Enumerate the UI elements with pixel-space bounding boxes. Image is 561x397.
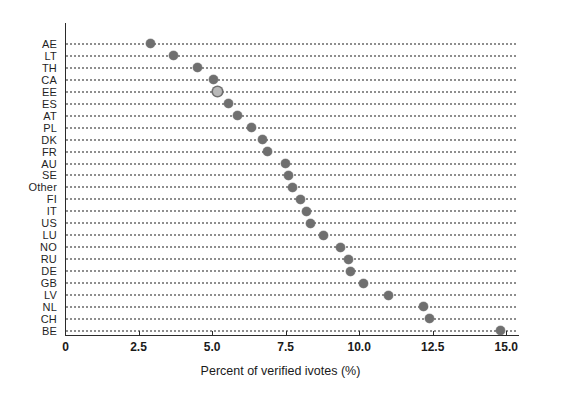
x-axis-ticks: 02.55.07.510.012.515.0 (65, 335, 519, 365)
x-axis-tick-label: 2.5 (130, 341, 147, 354)
row-gridline-dotted (65, 270, 518, 272)
x-axis-tick-mark (433, 331, 434, 336)
row-gridline-dotted (65, 127, 518, 129)
row-gridline-dotted (65, 115, 518, 117)
y-axis-tick-label: NL (43, 301, 57, 312)
y-axis-tick-label: DE (41, 266, 57, 277)
y-axis-tick-label: AT (43, 110, 57, 121)
data-point-marker (281, 159, 290, 168)
data-point-marker (169, 51, 178, 60)
y-axis-tick-label: FI (47, 194, 57, 205)
row-gridline-dotted (65, 198, 518, 200)
y-axis-tick-label: BE (42, 325, 57, 336)
x-axis-tick-mark (506, 331, 507, 336)
data-point-marker (146, 39, 155, 48)
data-point-marker (288, 183, 297, 192)
y-axis-tick-label: LV (44, 290, 57, 301)
plot-area (65, 23, 518, 335)
y-axis-tick-label: GB (41, 278, 57, 289)
y-axis-tick-label: CH (41, 313, 57, 324)
x-axis-title: Percent of verified ivotes (%) (0, 364, 561, 379)
y-axis-tick-label: TH (42, 62, 57, 73)
x-axis-tick-label: 12.5 (421, 341, 444, 354)
data-point-marker (302, 207, 311, 216)
y-axis-tick-labels: AELTTHCAEEESATPLDKFRAUSEOtherFIITUSLUNOR… (0, 23, 61, 335)
y-axis-tick-label: SE (42, 170, 57, 181)
x-axis-tick-label: 15.0 (495, 341, 518, 354)
row-gridline-dotted (65, 330, 518, 332)
y-axis-tick-label: NO (40, 242, 57, 253)
row-gridline-dotted (65, 258, 518, 260)
row-gridline-dotted (65, 151, 518, 153)
y-axis-tick-label: ES (42, 98, 57, 109)
data-point-marker (359, 279, 368, 288)
y-axis-tick-label: FR (42, 146, 57, 157)
y-axis-tick-label: Other (28, 182, 57, 193)
row-gridline-dotted (65, 282, 518, 284)
row-gridline-dotted (65, 163, 518, 165)
y-axis-tick-label: LU (43, 230, 57, 241)
data-point-marker (224, 99, 233, 108)
data-point-marker (284, 171, 293, 180)
row-gridline-dotted (65, 234, 518, 236)
row-gridline-dotted (65, 139, 518, 141)
row-gridline-dotted (65, 43, 518, 45)
data-point-marker (319, 231, 328, 240)
data-point-marker (384, 291, 393, 300)
row-gridline-dotted (65, 246, 518, 248)
y-axis-tick-label: RU (41, 254, 57, 265)
data-point-marker (346, 267, 355, 276)
data-point-marker (336, 243, 345, 252)
x-axis-tick-label: 7.5 (277, 341, 294, 354)
x-axis-tick-label: 0 (62, 341, 69, 354)
data-point-marker (213, 87, 222, 96)
data-point-marker (258, 135, 267, 144)
x-axis-tick-mark (212, 331, 213, 336)
y-axis-tick-label: EE (42, 86, 57, 97)
row-gridline-dotted (65, 79, 518, 81)
data-point-marker (344, 255, 353, 264)
row-gridline-dotted (65, 306, 518, 308)
y-axis-tick-label: AU (41, 158, 57, 169)
y-axis-tick-label: LT (45, 50, 57, 61)
x-axis-tick-mark (65, 331, 66, 336)
data-point-marker (425, 314, 434, 323)
x-axis-tick-label: 5.0 (204, 341, 221, 354)
data-point-marker (263, 147, 272, 156)
data-point-marker (496, 326, 505, 335)
data-point-marker (296, 195, 305, 204)
data-point-marker (233, 111, 242, 120)
row-gridline-dotted (65, 318, 518, 320)
x-axis-tick-mark (286, 331, 287, 336)
y-axis-tick-label: IT (47, 206, 57, 217)
data-point-marker (419, 302, 428, 311)
row-gridline-dotted (65, 222, 518, 224)
data-point-marker (247, 123, 256, 132)
y-axis-tick-label: AE (42, 38, 57, 49)
y-axis-tick-label: PL (43, 122, 57, 133)
row-gridline-dotted (65, 103, 518, 105)
row-gridline-dotted (65, 67, 518, 69)
row-gridline-dotted (65, 91, 518, 93)
x-axis-tick-mark (139, 331, 140, 336)
y-axis-tick-label: CA (41, 74, 57, 85)
x-axis-tick-label: 10.0 (347, 341, 370, 354)
dot-plot-chart: AELTTHCAEEESATPLDKFRAUSEOtherFIITUSLUNOR… (0, 0, 561, 397)
y-axis-tick-label: US (41, 218, 57, 229)
data-point-marker (193, 63, 202, 72)
y-axis-tick-label: DK (41, 134, 57, 145)
row-gridline-dotted (65, 55, 518, 57)
row-gridline-dotted (65, 210, 518, 212)
x-axis-tick-mark (359, 331, 360, 336)
data-point-marker (209, 75, 218, 84)
data-point-marker (306, 219, 315, 228)
row-gridline-dotted (65, 294, 518, 296)
